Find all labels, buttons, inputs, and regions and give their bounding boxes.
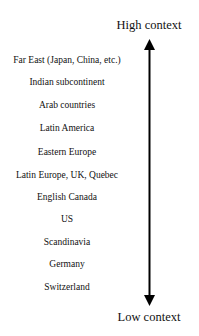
- low-context-label: Low context: [99, 310, 199, 325]
- double-arrow-icon: [0, 0, 199, 336]
- arrow-down-head: [144, 295, 155, 306]
- arrow-up-head: [144, 39, 155, 50]
